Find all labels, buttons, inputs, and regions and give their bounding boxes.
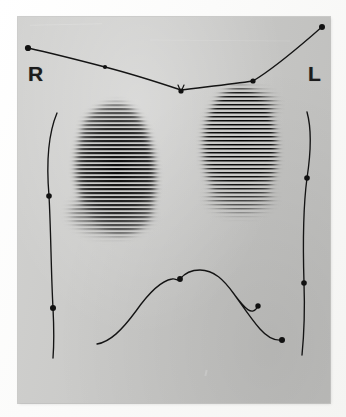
diaphragm-outline <box>97 270 282 344</box>
marker-diaphragm-centre-notch <box>177 276 183 282</box>
label-left-side: L <box>308 63 321 84</box>
left-lateral-chest-wall <box>302 112 310 355</box>
screenshot-root: R L <box>0 0 346 417</box>
marker-upper-outline-left-end <box>319 24 325 30</box>
marker-left-wall-upper <box>304 175 310 181</box>
marker-diaphragm-left-end <box>279 337 285 343</box>
marker-upper-outline-right-end <box>25 45 31 51</box>
marker-right-wall-upper <box>46 193 52 199</box>
marker-upper-outline-left-mid <box>250 78 255 83</box>
marker-right-wall-lower <box>50 305 56 311</box>
marker-upper-outline-apex <box>178 88 183 93</box>
left-lung-field <box>190 72 295 232</box>
label-right-side: R <box>28 63 43 84</box>
marker-upper-outline-right-mid <box>103 65 107 69</box>
marker-left-wall-lower <box>301 280 307 286</box>
right-lung-field <box>55 90 175 255</box>
scan-graphics <box>0 0 346 417</box>
marker-diaphragm-left-mid <box>255 303 260 308</box>
